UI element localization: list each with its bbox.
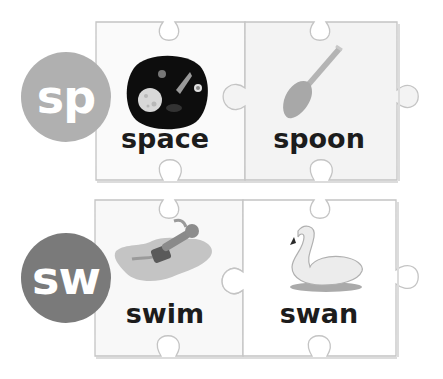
word-swim: swim bbox=[115, 298, 215, 329]
blend-badge-sp: sp bbox=[21, 52, 111, 142]
word-swan: swan bbox=[264, 298, 374, 329]
blend-label: sw bbox=[32, 251, 100, 305]
space-scene-icon bbox=[124, 50, 210, 130]
swimmer-icon bbox=[112, 217, 217, 289]
spoon-icon bbox=[278, 42, 348, 124]
puzzle-row-sw: sw swim swan bbox=[0, 185, 443, 379]
word-spoon: spoon bbox=[264, 123, 374, 154]
swan-icon bbox=[284, 223, 366, 295]
blend-badge-sw: sw bbox=[21, 233, 111, 323]
blend-label: sp bbox=[37, 70, 95, 124]
word-space: space bbox=[115, 123, 215, 154]
puzzle-row-sp: sp space spoon bbox=[0, 0, 443, 190]
